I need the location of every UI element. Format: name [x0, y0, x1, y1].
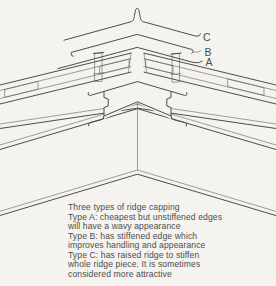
- panel-underside-lines: [0, 104, 276, 150]
- insulation-hatch-right-ridge: [146, 59, 173, 73]
- caption-line: considered more attractive: [68, 270, 263, 280]
- figure-caption: Three types of ridge capping Type A: che…: [68, 203, 263, 279]
- label-type-a: A: [206, 56, 213, 68]
- insulation-hatch-right-outer: [228, 79, 264, 95]
- label-type-c: C: [203, 31, 211, 43]
- figure-ridge-capping: C B A Three types of ridge capping Type …: [0, 0, 276, 286]
- insulation-hatch-left-outer: [5, 81, 38, 97]
- insulation-hatch-left-ridge: [100, 59, 129, 74]
